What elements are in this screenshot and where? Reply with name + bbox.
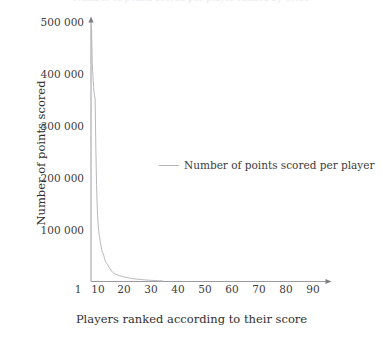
x-tick-label: 30 xyxy=(138,284,164,295)
x-tick-label: 60 xyxy=(219,284,245,295)
x-tick-label: 80 xyxy=(273,284,299,295)
x-axis-title: Players ranked according to their score xyxy=(0,312,383,326)
x-tick-label: 50 xyxy=(192,284,218,295)
legend-line-swatch xyxy=(159,165,179,166)
chart-figure: Number of points scored per player ranke… xyxy=(0,0,383,337)
y-tick-label: 500 000 xyxy=(0,17,91,28)
data-series-line xyxy=(92,26,164,281)
x-tick-label: 10 xyxy=(85,284,111,295)
x-tick-label: 90 xyxy=(300,284,326,295)
legend-entry-label: Number of points scored per player xyxy=(184,160,375,171)
x-tick-label: 40 xyxy=(165,284,191,295)
y-axis-title: Number of points scored xyxy=(34,33,48,273)
x-axis-arrow xyxy=(326,279,332,284)
x-tick-label: 20 xyxy=(111,284,137,295)
x-tick-label: 70 xyxy=(246,284,272,295)
chart-legend: Number of points scored per player xyxy=(159,160,375,171)
